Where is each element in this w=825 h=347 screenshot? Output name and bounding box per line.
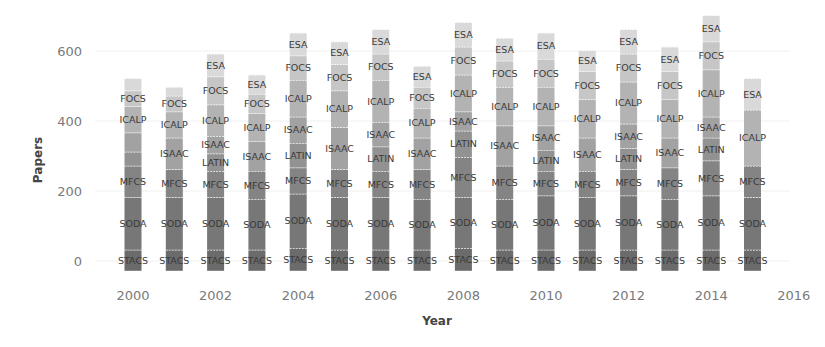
segment-label: MFCS xyxy=(657,178,683,189)
segment-label: FOCS xyxy=(409,92,435,103)
segment-label: SODA xyxy=(409,219,437,230)
segment-label: MFCS xyxy=(285,175,311,186)
segment-label: MFCS xyxy=(244,180,270,191)
bar-2003: STACSSODAMFCSISAACICALPFOCSESA xyxy=(242,75,272,271)
segment-label: ICALP xyxy=(367,96,394,107)
segment-label: ESA xyxy=(743,89,762,100)
segment-label: SODA xyxy=(574,218,602,229)
y-axis-title: Papers xyxy=(31,137,45,183)
bar-segment-esa xyxy=(125,78,142,90)
segment-label: SODA xyxy=(367,218,395,229)
segment-label: ISAAC xyxy=(408,148,437,159)
segment-label: MFCS xyxy=(120,176,146,187)
segment-label: ICALP xyxy=(326,103,353,114)
segment-label: STACS xyxy=(324,255,354,266)
segment-label: ESA xyxy=(578,55,597,66)
segment-label: ISAAC xyxy=(243,151,272,162)
segment-label: ICALP xyxy=(698,88,725,99)
bar-2007: STACSSODAMFCSISAACICALPFOCSESA xyxy=(407,66,437,271)
segment-label: SODA xyxy=(326,218,354,229)
x-tick-label: 2016 xyxy=(777,288,810,303)
segment-label: STACS xyxy=(490,255,520,266)
segment-label: FOCS xyxy=(616,62,642,73)
bar-segment-latin xyxy=(125,152,142,166)
segment-label: FOCS xyxy=(492,68,518,79)
segment-label: STACS xyxy=(407,255,437,266)
segment-label: ISAAC xyxy=(532,132,561,143)
segment-label: SODA xyxy=(739,218,767,229)
segment-label: FOCS xyxy=(368,61,394,72)
bar-2013: STACSSODAMFCSISAACICALPFOCSESA xyxy=(655,47,685,271)
segment-label: MFCS xyxy=(739,176,765,187)
segment-label: ESA xyxy=(289,39,308,50)
segment-label: FOCS xyxy=(285,62,311,73)
segment-label: ICALP xyxy=(739,132,766,143)
segment-label: STACS xyxy=(737,255,767,266)
segment-label: MFCS xyxy=(615,177,641,188)
segment-label: STACS xyxy=(242,255,272,266)
y-tick-label: 400 xyxy=(57,114,82,129)
bars: STACSSODAMFCSICALPFOCSSTACSSODAMFCSISAAC… xyxy=(118,15,768,270)
segment-label: ESA xyxy=(454,29,473,40)
bar-2001: STACSSODAMFCSISAACICALPFOCS xyxy=(159,87,189,271)
segment-label: SODA xyxy=(698,217,726,228)
segment-label: STACS xyxy=(159,255,189,266)
segment-label: ESA xyxy=(495,44,514,55)
segment-label: STACS xyxy=(572,255,602,266)
segment-label: ICALP xyxy=(656,113,683,124)
segment-label: ESA xyxy=(248,79,267,90)
segment-label: ISAAC xyxy=(656,147,685,158)
segment-label: ICALP xyxy=(450,88,477,99)
segment-label: MFCS xyxy=(492,177,518,188)
segment-label: MFCS xyxy=(368,179,394,190)
segment-label: FOCS xyxy=(244,98,270,109)
y-tick-label: 0 xyxy=(74,254,82,269)
segment-label: ESA xyxy=(661,54,680,65)
bar-2015: STACSSODAMFCSICALPESA xyxy=(737,78,767,270)
bar-2002: STACSSODAMFCSLATINISAACICALPFOCSESA xyxy=(201,54,231,271)
x-axis-title: Year xyxy=(421,314,452,328)
segment-label: ISAAC xyxy=(284,124,313,135)
segment-label: MFCS xyxy=(161,178,187,189)
segment-label: ISAAC xyxy=(366,129,395,140)
segment-label: MFCS xyxy=(202,179,228,190)
stacked-bar-chart: 0200400600 STACSSODAMFCSICALPFOCSSTACSSO… xyxy=(0,0,825,347)
segment-label: LATIN xyxy=(285,150,312,161)
segment-label: LATIN xyxy=(202,157,229,168)
segment-label: ISAAC xyxy=(201,139,230,150)
bar-2012: STACSSODAMFCSLATINISAACICALPFOCSESA xyxy=(614,29,644,270)
bar-2010: STACSSODAMFCSLATINISAACICALPFOCSESA xyxy=(531,33,561,271)
segment-label: LATIN xyxy=(615,153,642,164)
segment-label: ISAAC xyxy=(614,131,643,142)
segment-label: ESA xyxy=(413,71,432,82)
segment-label: ESA xyxy=(371,36,390,47)
y-tick-label: 600 xyxy=(57,44,82,59)
segment-label: ISAAC xyxy=(449,116,478,127)
segment-label: ICALP xyxy=(161,119,188,130)
x-tick-label: 2002 xyxy=(199,288,232,303)
segment-label: FOCS xyxy=(533,68,559,79)
segment-label: ESA xyxy=(330,47,349,58)
segment-label: ICALP xyxy=(533,101,560,112)
segment-label: ICALP xyxy=(202,115,229,126)
segment-label: ISAAC xyxy=(697,122,726,133)
segment-label: SODA xyxy=(491,219,519,230)
segment-label: MFCS xyxy=(450,172,476,183)
segment-label: ISAAC xyxy=(160,148,189,159)
segment-label: STACS xyxy=(201,255,231,266)
segment-label: MFCS xyxy=(326,178,352,189)
segment-label: ICALP xyxy=(574,113,601,124)
segment-label: ESA xyxy=(619,36,638,47)
segment-label: ICALP xyxy=(120,114,147,125)
segment-label: ESA xyxy=(537,40,556,51)
segment-label: MFCS xyxy=(409,179,435,190)
segment-label: ISAAC xyxy=(490,140,519,151)
x-tick-label: 2000 xyxy=(116,288,149,303)
segment-label: FOCS xyxy=(120,93,146,104)
segment-label: STACS xyxy=(283,254,313,265)
segment-label: STACS xyxy=(118,255,148,266)
bar-segment-esa xyxy=(166,87,183,96)
segment-label: ISAAC xyxy=(325,143,354,154)
x-axis: 200020022004200620082010201220142016 xyxy=(116,288,810,303)
bar-2009: STACSSODAMFCSISAACICALPFOCSESA xyxy=(490,38,520,271)
